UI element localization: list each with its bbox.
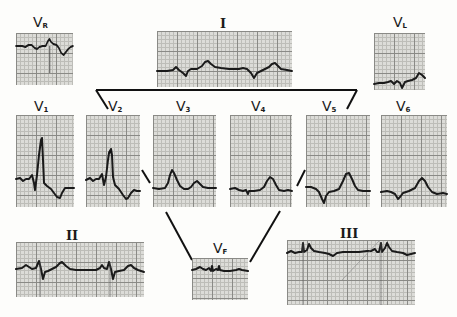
ecg-trace-v1 [16, 115, 74, 207]
ecg-trace-i [157, 31, 292, 87]
ecg-panel-ii [16, 242, 144, 297]
lead-label-v1: V1 [34, 98, 48, 114]
ecg-trace-v6 [381, 115, 447, 207]
lead-label-vl: VL [393, 14, 407, 30]
lead-label-i: I [220, 16, 226, 31]
lead-label-ii: II [66, 228, 78, 243]
ecg-panel-iii [287, 240, 415, 305]
ecg-panel-v3 [153, 115, 216, 207]
lead-label-iii: III [340, 226, 358, 241]
ecg-trace-iii [287, 240, 415, 305]
ecg-trace-v3 [153, 115, 216, 207]
lead-label-vr: VR [33, 14, 48, 30]
ecg-panel-v4 [230, 115, 292, 207]
lead-label-v3: V3 [176, 98, 190, 114]
ecg-panel-v1 [16, 115, 74, 207]
lead-label-vf: VF [213, 240, 227, 256]
connector-right-to-vf [250, 211, 280, 262]
lead-label-v6: V6 [396, 98, 410, 114]
ecg-panel-vr [16, 33, 73, 85]
ecg-panel-v6 [381, 115, 447, 207]
ecg-panel-i [157, 31, 292, 87]
ecg-trace-v5 [306, 115, 370, 207]
ecg-trace-vf [192, 258, 248, 300]
connector-left-to-vf [166, 212, 192, 260]
ecg-panel-v5 [306, 115, 370, 207]
ecg-trace-vl [374, 33, 425, 90]
ecg-panel-vl [374, 33, 425, 90]
ecg-panel-v2 [86, 115, 140, 207]
lead-label-v5: V5 [322, 98, 336, 114]
ecg-trace-ii [16, 242, 144, 297]
lead-label-v4: V4 [251, 98, 265, 114]
connector-left-to-v2 [96, 90, 108, 109]
ecg-trace-v2 [86, 115, 140, 207]
connector-right-to-v5 [347, 90, 357, 109]
ecg-panel-vf [192, 258, 248, 300]
ecg-trace-v4 [230, 115, 292, 207]
connector-v4-v5 [297, 170, 305, 186]
connector-v2-v3 [142, 170, 150, 183]
ecg-trace-vr [16, 33, 73, 85]
lead-label-v2: V2 [108, 98, 122, 114]
